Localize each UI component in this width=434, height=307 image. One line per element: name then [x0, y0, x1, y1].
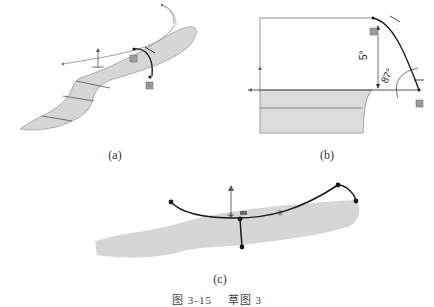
surface-block	[260, 90, 372, 133]
guide-curve-end	[162, 5, 174, 24]
figure-title: 草图 3	[228, 294, 262, 306]
pierce-marker-icon: ✳	[276, 208, 284, 218]
panel-b-drawing	[248, 16, 424, 133]
surface-strip	[20, 27, 196, 130]
panel-b-label: (b)	[307, 148, 347, 163]
surface-shape	[95, 200, 359, 258]
pierce-marker-icon: ✳	[227, 211, 235, 221]
figure-number: 图 3-15	[172, 294, 212, 306]
panel-c-drawing: ✳ ✳	[95, 183, 359, 258]
relation-icon	[370, 28, 377, 35]
relation-icon	[416, 100, 423, 107]
dimension-linear: 5°	[358, 50, 369, 60]
relation-icon	[146, 82, 153, 89]
panel-a-drawing	[20, 4, 196, 130]
panel-c-label: (c)	[200, 272, 240, 287]
panel-a-label: (a)	[95, 148, 135, 163]
figure-caption: 图 3-15 草图 3	[0, 291, 434, 307]
dimension-angle: 87°	[379, 66, 395, 84]
relation-icon	[130, 55, 137, 62]
